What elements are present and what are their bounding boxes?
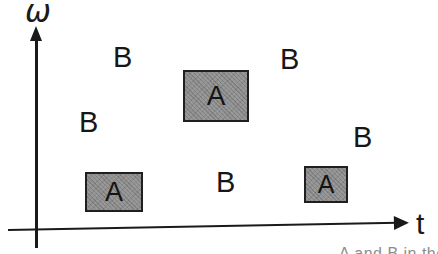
- caption-fragment: A and B in the: [339, 246, 438, 254]
- region-a-bottom-left: A: [85, 172, 143, 212]
- region-a-label: A: [105, 179, 123, 206]
- t-axis: [8, 222, 410, 229]
- arrowhead-right-icon: [394, 215, 409, 229]
- t-axis-line: [8, 221, 398, 231]
- b-mark-mid-right: B: [353, 123, 372, 152]
- region-a-label: A: [318, 172, 335, 197]
- time-frequency-diagram: ω t A A A B B B B B A and B in the: [0, 0, 438, 254]
- t-axis-label: t: [416, 209, 424, 239]
- b-mark-bottom-center: B: [216, 168, 235, 197]
- region-a-top-center: A: [183, 70, 249, 122]
- omega-axis-label: ω: [25, 0, 51, 26]
- omega-axis-line: [35, 36, 38, 248]
- b-mark-upper-left: B: [113, 43, 132, 72]
- region-a-label: A: [207, 82, 226, 110]
- b-mark-upper-right: B: [280, 45, 299, 74]
- b-mark-mid-left: B: [79, 108, 98, 137]
- region-a-bottom-right: A: [304, 166, 348, 203]
